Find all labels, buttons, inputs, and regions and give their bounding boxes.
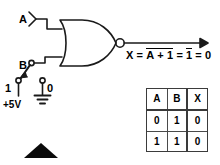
truth-table: A B X 0 1 0 1 1 0: [146, 88, 208, 152]
table-row: 0 1 0: [147, 110, 207, 132]
boolean-equation: X = A + 1 = 1 = 0: [126, 48, 211, 61]
table-cell-b: 1: [167, 131, 187, 151]
table-header-a: A: [147, 89, 167, 110]
table-cell-a: 1: [147, 131, 167, 151]
input-a-label: A: [19, 14, 27, 25]
equation-term-1: A + 1: [146, 48, 173, 61]
schematic-diagram: A B 1 0 +5V X = A + 1 = 1 = 0 A B X 0 1 …: [0, 0, 220, 165]
wire-a: [36, 19, 62, 29]
table-header-b: B: [167, 89, 187, 110]
equation-equals-1: =: [134, 50, 147, 61]
switch-contact-zero: [40, 78, 45, 83]
table-row: 1 1 0: [147, 131, 207, 151]
inversion-bubble-icon: [116, 39, 124, 47]
input-a-wedge-icon: [29, 12, 36, 26]
switch-contact-one: [16, 78, 21, 83]
black-triangle-marker: [24, 143, 58, 158]
input-b-label: B: [19, 60, 27, 71]
equation-equals-2: =: [173, 50, 186, 61]
output-arrowhead-icon: [200, 39, 208, 48]
wire-b: [34, 57, 62, 63]
table-cell-x: 0: [187, 110, 207, 132]
nor-gate-body: [60, 20, 116, 66]
table-cell-a: 0: [147, 110, 167, 132]
table-header-x: X: [187, 89, 207, 110]
table-cell-x: 0: [187, 131, 207, 151]
table-cell-b: 1: [167, 110, 187, 132]
supply-voltage-label: +5V: [3, 100, 21, 110]
switch-position-zero-label: 0: [47, 83, 53, 94]
switch-position-one-label: 1: [5, 83, 11, 94]
equation-result: 0: [205, 50, 211, 61]
table-header-row: A B X: [147, 89, 207, 110]
equation-lhs: X: [126, 50, 134, 61]
equation-equals-3: =: [192, 50, 205, 61]
